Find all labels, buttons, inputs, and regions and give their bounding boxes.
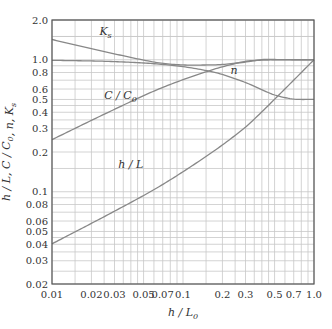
x-tick-label: 0.07 (152, 289, 174, 300)
x-tick-label: 0.7 (286, 289, 302, 300)
curve-label-h-l: h / L (118, 158, 143, 171)
y-tick-label: 0.06 (26, 216, 48, 227)
y-tick-label: 0.6 (32, 84, 48, 95)
y-tick-label: 0.02 (26, 279, 48, 290)
x-axis-ticks: 0.010.020.030.050.070.10.20.30.50.71.0 (41, 289, 322, 300)
y-axis-label: h / L, C / C0, n, Ks (0, 103, 18, 201)
y-tick-label: 2.0 (32, 15, 48, 26)
x-tick-label: 0.03 (103, 289, 125, 300)
y-tick-label: 0.4 (32, 107, 48, 118)
chart: 0.010.020.030.050.070.10.20.30.50.71.0 0… (0, 0, 332, 329)
y-tick-label: 0.2 (32, 147, 48, 158)
curve-label-n: n (230, 64, 237, 77)
y-tick-label: 0.3 (32, 123, 48, 134)
y-tick-label: 0.8 (32, 67, 48, 78)
y-tick-label: 0.1 (32, 186, 48, 197)
y-tick-label: 0.08 (26, 199, 48, 210)
y-tick-label: 0.05 (26, 226, 48, 237)
x-tick-label: 0.1 (175, 289, 191, 300)
x-tick-label: 0.5 (267, 289, 283, 300)
y-tick-label: 0.5 (32, 94, 48, 105)
x-tick-label: 0.02 (80, 289, 102, 300)
y-axis-ticks: 0.020.030.040.050.060.080.10.20.30.40.50… (26, 15, 48, 290)
x-tick-label: 0.3 (238, 289, 254, 300)
y-tick-label: 0.03 (26, 255, 48, 266)
x-tick-label: 0.01 (41, 289, 63, 300)
curve-label-ks: Ks (98, 25, 111, 40)
x-tick-label: 1.0 (306, 289, 322, 300)
y-tick-label: 0.04 (26, 239, 48, 250)
x-tick-label: 0.2 (214, 289, 230, 300)
curve-label-c-c0: C / C0 (104, 89, 137, 104)
y-tick-label: 1.0 (32, 54, 48, 65)
x-axis-label: h / L0 (168, 306, 198, 321)
